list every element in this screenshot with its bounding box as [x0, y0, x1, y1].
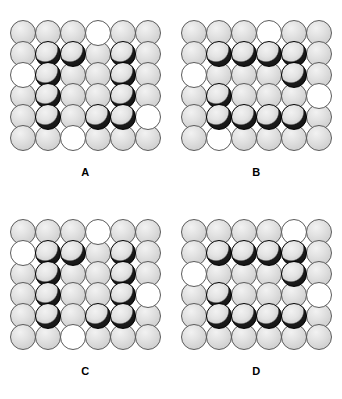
- white-atom-icon: [85, 20, 111, 46]
- grid-cell: [86, 327, 111, 348]
- grey-atom-icon: [10, 125, 36, 151]
- grid-cell: [182, 106, 207, 127]
- grid-cell: [136, 85, 161, 106]
- grid-cell: [111, 306, 136, 327]
- grid-cell: [61, 106, 86, 127]
- grid-cell: [307, 106, 332, 127]
- black-atom-icon: [206, 240, 232, 266]
- grid-cell: [86, 127, 111, 148]
- grid-cell: [36, 64, 61, 85]
- grid-cell: [257, 64, 282, 85]
- white-atom-icon: [181, 62, 207, 88]
- grid-cell: [307, 127, 332, 148]
- grid-cell: [182, 127, 207, 148]
- black-atom-icon: [35, 104, 61, 130]
- white-atom-icon: [60, 125, 86, 151]
- grid-cell: [136, 285, 161, 306]
- panel-label: B: [171, 166, 342, 178]
- black-atom-icon: [110, 303, 136, 329]
- grid-cell: [232, 64, 257, 85]
- grid-cell: [61, 43, 86, 64]
- grid-cell: [11, 327, 36, 348]
- grey-atom-icon: [181, 125, 207, 151]
- black-atom-icon: [110, 104, 136, 130]
- grid-cell: [232, 43, 257, 64]
- grid-cell: [111, 106, 136, 127]
- white-atom-icon: [60, 324, 86, 350]
- grid-cell: [182, 264, 207, 285]
- black-atom-icon: [256, 240, 282, 266]
- grid-cell: [111, 327, 136, 348]
- grid-cell: [11, 22, 36, 43]
- grid-cell: [11, 243, 36, 264]
- grid-cell: [207, 64, 232, 85]
- white-atom-icon: [10, 62, 36, 88]
- grid-cell: [257, 22, 282, 43]
- black-atom-icon: [231, 104, 257, 130]
- grid-cell: [282, 306, 307, 327]
- grid-cell: [136, 22, 161, 43]
- panel-label: A: [0, 166, 171, 178]
- black-atom-icon: [281, 261, 307, 287]
- grid-cell: [232, 243, 257, 264]
- grid-cell: [232, 106, 257, 127]
- grid-cell: [257, 306, 282, 327]
- grid-cell: [136, 127, 161, 148]
- atom-grid: [11, 222, 161, 348]
- black-atom-icon: [281, 303, 307, 329]
- black-atom-icon: [256, 41, 282, 67]
- grid-cell: [282, 106, 307, 127]
- white-atom-icon: [135, 282, 161, 308]
- grid-cell: [307, 43, 332, 64]
- grid-cell: [257, 43, 282, 64]
- grid-cell: [11, 127, 36, 148]
- grid-cell: [36, 43, 61, 64]
- grid-cell: [282, 327, 307, 348]
- grid-cell: [207, 327, 232, 348]
- grid-cell: [207, 22, 232, 43]
- grid-cell: [111, 127, 136, 148]
- grid-cell: [86, 222, 111, 243]
- grid-cell: [207, 43, 232, 64]
- grid-cell: [86, 85, 111, 106]
- grey-atom-icon: [306, 125, 332, 151]
- black-atom-icon: [231, 41, 257, 67]
- grid-cell: [257, 106, 282, 127]
- grid-cell: [207, 85, 232, 106]
- grey-atom-icon: [181, 324, 207, 350]
- white-atom-icon: [306, 83, 332, 109]
- atom-grid: [182, 22, 332, 148]
- grid-cell: [61, 127, 86, 148]
- grid-cell: [36, 106, 61, 127]
- grid-cell: [207, 106, 232, 127]
- grid-cell: [136, 327, 161, 348]
- grid-cell: [111, 43, 136, 64]
- black-atom-icon: [206, 104, 232, 130]
- grey-atom-icon: [135, 324, 161, 350]
- black-atom-icon: [85, 104, 111, 130]
- grid-cell: [182, 85, 207, 106]
- grid-cell: [207, 243, 232, 264]
- grid-cell: [232, 22, 257, 43]
- black-atom-icon: [85, 303, 111, 329]
- grid-cell: [182, 64, 207, 85]
- grid-cell: [307, 22, 332, 43]
- grid-cell: [11, 106, 36, 127]
- grid-cell: [207, 306, 232, 327]
- atom-grid: [11, 22, 161, 148]
- grid-cell: [136, 64, 161, 85]
- grid-cell: [307, 85, 332, 106]
- grid-cell: [36, 127, 61, 148]
- white-atom-icon: [181, 261, 207, 287]
- grid-cell: [136, 43, 161, 64]
- grid-cell: [207, 127, 232, 148]
- grid-cell: [182, 22, 207, 43]
- white-atom-icon: [135, 104, 161, 130]
- black-atom-icon: [281, 62, 307, 88]
- grid-cell: [182, 327, 207, 348]
- atom-grid-figure: ABCD: [0, 0, 342, 399]
- black-atom-icon: [256, 303, 282, 329]
- atom-grid: [182, 222, 332, 348]
- grid-cell: [111, 22, 136, 43]
- grid-cell: [232, 85, 257, 106]
